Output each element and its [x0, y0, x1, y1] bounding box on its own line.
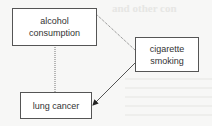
node-label-line: cigarette: [150, 43, 185, 55]
node-alcohol-consumption: alcohol consumption: [12, 8, 97, 46]
node-label-line: alcohol: [29, 15, 80, 27]
edge-smoking-alcohol: [96, 14, 135, 50]
node-lung-cancer: lung cancer: [20, 92, 92, 119]
edge-smoking-cancer-arrow: [93, 63, 135, 105]
node-label-line: lung cancer: [33, 100, 80, 112]
node-label-line: smoking: [150, 55, 185, 67]
node-cigarette-smoking: cigarette smoking: [135, 37, 199, 72]
node-label-line: consumption: [29, 27, 80, 39]
